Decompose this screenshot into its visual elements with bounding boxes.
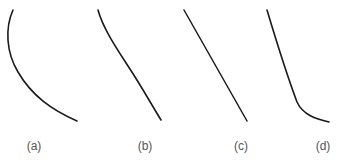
curve-c [184,10,247,121]
curve-a [8,10,77,121]
curves-figure [0,0,346,164]
label-b: (b) [138,139,153,153]
label-c: (c) [234,139,248,153]
label-d: (d) [316,139,331,153]
curve-b [98,10,161,120]
curve-d [267,10,329,122]
label-a: (a) [27,139,42,153]
